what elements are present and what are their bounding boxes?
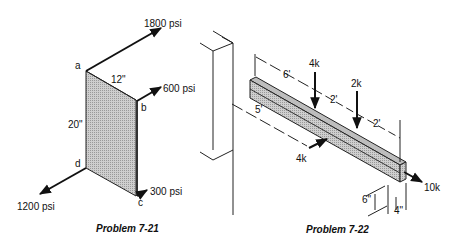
corner-c: c	[138, 197, 143, 208]
diagram-canvas: 1800 psi 600 psi 300 psi 1200 psi a b c …	[0, 0, 460, 239]
corner-b: b	[141, 102, 147, 113]
load-label-d: 1200 psi	[17, 201, 55, 212]
load-label-4k-lateral: 4k	[296, 153, 308, 164]
load-label-b: 600 psi	[163, 83, 195, 94]
dim-2ft-a: 2'	[330, 94, 338, 105]
load-arrow-a	[86, 28, 161, 71]
wall-support	[200, 31, 233, 215]
dim-height: 20"	[68, 119, 83, 130]
load-label-4k-down: 4k	[309, 58, 321, 69]
caption-7-21: Problem 7-21	[96, 223, 159, 234]
dim-2ft-b: 2'	[373, 118, 381, 129]
load-label-2k-down: 2k	[351, 78, 363, 89]
load-label-a: 1800 psi	[144, 18, 182, 29]
load-arrow-d	[40, 168, 86, 194]
corner-d: d	[75, 158, 81, 169]
figure-7-22: 4k 2k 4k 10k 6' 2' 2' 5' 6" 4" Problem 7…	[200, 31, 441, 235]
dim-5ft: 5'	[255, 104, 263, 115]
load-label-c: 300 psi	[150, 186, 182, 197]
dim-6ft: 6'	[283, 69, 291, 80]
caption-7-22: Problem 7-22	[306, 224, 369, 235]
load-arrow-c	[137, 190, 147, 196]
beam	[250, 77, 406, 182]
corner-a: a	[75, 60, 81, 71]
load-arrow-b	[137, 87, 161, 101]
load-arrow-4k-lateral	[309, 139, 327, 148]
figure-7-21: 1800 psi 600 psi 300 psi 1200 psi a b c …	[17, 18, 195, 234]
load-label-10k: 10k	[424, 182, 441, 193]
load-arrow-10k-axial	[404, 172, 422, 182]
dim-4in: 4"	[394, 205, 404, 216]
dim-width: 12"	[111, 74, 126, 85]
plate	[86, 71, 136, 196]
dim-6in: 6"	[362, 194, 372, 205]
